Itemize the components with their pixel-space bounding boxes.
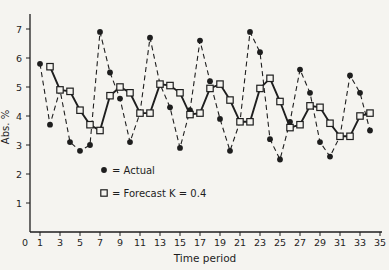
data-point-forecast <box>57 87 63 93</box>
data-point-forecast <box>87 122 93 128</box>
x-tick-label: 5 <box>77 237 83 248</box>
data-point-actual <box>317 139 323 145</box>
y-tick-label: 5 <box>16 82 22 93</box>
x-tick-label: 35 <box>374 237 386 248</box>
x-tick-label: 11 <box>134 237 146 248</box>
y-tick-label: 4 <box>16 111 22 122</box>
data-point-forecast <box>277 98 283 104</box>
x-tick-label: 31 <box>334 237 346 248</box>
data-point-forecast <box>77 107 83 113</box>
x-tick-label: 33 <box>354 237 366 248</box>
data-point-actual <box>297 67 303 73</box>
y-tick-label: 1 <box>16 198 22 209</box>
data-point-actual <box>307 90 313 96</box>
data-point-actual <box>117 96 123 102</box>
data-point-actual <box>47 122 53 128</box>
data-point-forecast <box>117 84 123 90</box>
data-point-actual <box>147 35 153 41</box>
y-axis-title: Abs. % <box>0 110 11 144</box>
data-point-actual <box>67 139 73 145</box>
data-point-actual <box>177 145 183 151</box>
data-point-forecast <box>307 103 313 109</box>
data-point-actual <box>77 148 83 154</box>
series-actual <box>37 29 373 162</box>
data-point-forecast <box>157 81 163 87</box>
data-point-actual <box>357 90 363 96</box>
x-tick-label: 7 <box>97 237 103 248</box>
data-point-forecast <box>147 110 153 116</box>
y-tick-group: 1234567 <box>16 24 30 209</box>
data-point-actual <box>257 49 263 55</box>
x-tick-group: 01357911131517192123252729313335 <box>22 232 386 248</box>
x-tick-label: 1 <box>37 237 43 248</box>
y-tick-label: 2 <box>16 169 22 180</box>
x-tick-label: 19 <box>214 237 226 248</box>
data-point-forecast <box>187 111 193 117</box>
data-point-forecast <box>357 113 363 119</box>
x-tick-label: 25 <box>274 237 286 248</box>
data-point-forecast <box>217 81 223 87</box>
line-chart: 013579111315171921232527293133351234567T… <box>0 0 389 270</box>
data-point-actual <box>227 148 233 154</box>
data-point-forecast <box>297 122 303 128</box>
data-point-actual <box>217 116 223 122</box>
data-point-forecast <box>347 133 353 139</box>
data-point-forecast <box>97 127 103 133</box>
data-point-forecast <box>167 82 173 88</box>
x-tick-label: 9 <box>117 237 123 248</box>
data-point-actual <box>197 38 203 44</box>
data-point-actual <box>267 136 273 142</box>
data-point-forecast <box>127 90 133 96</box>
x-axis-title: Time period <box>173 252 236 264</box>
data-point-forecast <box>197 110 203 116</box>
x-tick-label: 23 <box>254 237 266 248</box>
x-tick-label: 3 <box>57 237 63 248</box>
series-forecast <box>47 64 373 140</box>
data-point-actual <box>367 128 373 134</box>
data-point-forecast <box>367 110 373 116</box>
data-point-forecast <box>177 90 183 96</box>
y-tick-label: 6 <box>16 53 22 64</box>
y-tick-label: 7 <box>16 24 22 35</box>
x-tick-label: 27 <box>294 237 306 248</box>
data-point-actual <box>347 73 353 79</box>
data-point-forecast <box>327 120 333 126</box>
data-point-forecast <box>257 85 263 91</box>
data-point-forecast <box>47 64 53 70</box>
data-point-forecast <box>287 124 293 130</box>
data-point-forecast <box>337 133 343 139</box>
data-point-forecast <box>107 93 113 99</box>
data-point-actual <box>327 154 333 160</box>
legend: = Actual= Forecast K = 0.4 <box>101 165 206 199</box>
data-point-forecast <box>101 190 107 196</box>
data-point-actual <box>277 157 283 163</box>
x-tick-label: 13 <box>154 237 166 248</box>
data-point-actual <box>167 104 173 110</box>
data-point-actual <box>37 61 43 67</box>
x-tick-label: 15 <box>174 237 186 248</box>
x-tick-label: 21 <box>234 237 246 248</box>
legend-label: = Actual <box>112 165 155 176</box>
data-point-forecast <box>237 119 243 125</box>
data-point-actual <box>87 142 93 148</box>
data-point-forecast <box>137 110 143 116</box>
data-point-actual <box>107 70 113 76</box>
data-point-actual <box>247 29 253 35</box>
data-point-forecast <box>67 88 73 94</box>
data-point-forecast <box>227 97 233 103</box>
x-tick-label: 29 <box>314 237 326 248</box>
x-tick-label: 17 <box>194 237 206 248</box>
data-point-forecast <box>317 104 323 110</box>
series-forecast-line <box>50 67 370 137</box>
data-point-actual <box>127 139 133 145</box>
data-point-actual <box>101 167 107 173</box>
data-point-actual <box>97 29 103 35</box>
y-tick-label: 3 <box>16 140 22 151</box>
forecast-chart-figure: 013579111315171921232527293133351234567T… <box>0 0 389 270</box>
data-point-forecast <box>267 75 273 81</box>
data-point-forecast <box>247 119 253 125</box>
x-tick-label: 0 <box>22 237 28 248</box>
data-point-forecast <box>207 85 213 91</box>
data-point-actual <box>207 78 213 84</box>
legend-label: = Forecast K = 0.4 <box>112 188 206 199</box>
